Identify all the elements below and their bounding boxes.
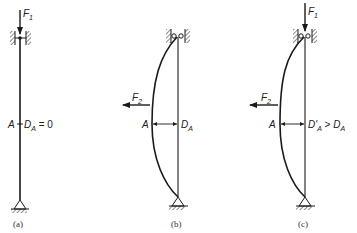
- force-label-f2: F2: [261, 92, 271, 105]
- deflection-comparison-label: D'A > DA: [308, 119, 345, 132]
- pin-support-icon: [296, 197, 315, 210]
- force-label-f2: F2: [132, 92, 142, 105]
- caption-c: (c): [298, 219, 308, 229]
- pin-support-icon: [169, 197, 188, 210]
- panel-a: F1 A DA = 0 (a): [7, 8, 53, 229]
- force-label-f1: F1: [308, 6, 318, 19]
- pin-support-icon: [11, 200, 29, 213]
- deflected-column: [280, 37, 305, 197]
- caption-a: (a): [13, 219, 23, 229]
- point-label-a: A: [268, 119, 276, 130]
- panel-b: F2 A DA (b): [123, 29, 193, 229]
- panel-c: F1 F2 A D'A > DA (c): [250, 3, 345, 229]
- caption-b: (b): [171, 219, 182, 229]
- force-label-f1: F1: [23, 8, 33, 21]
- buckling-diagram: F1 A DA = 0 (a): [0, 0, 357, 233]
- point-label-a: A: [7, 119, 15, 130]
- deflected-column: [152, 37, 178, 197]
- deflection-label: DA: [181, 119, 193, 132]
- deflection-label: DA = 0: [24, 119, 53, 132]
- point-label-a: A: [141, 119, 149, 130]
